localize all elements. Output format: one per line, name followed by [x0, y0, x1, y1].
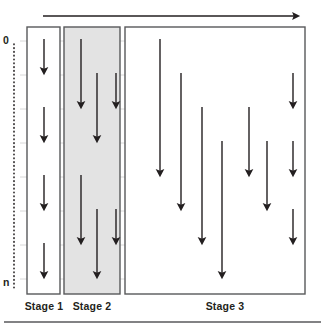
axis-label-n: n [3, 276, 9, 288]
pipeline-stage-diagram: 0 n Stage 1 Stage 2 Stage 3 [0, 0, 321, 326]
stage-boxes [27, 27, 305, 294]
diagram-canvas [0, 0, 321, 326]
stage-label-stage-3: Stage 3 [181, 300, 269, 312]
axis-label-zero: 0 [3, 34, 9, 46]
stage-box-3 [125, 27, 305, 294]
stage-label-stage-2: Stage 2 [48, 300, 136, 312]
stage-box-2 [64, 27, 120, 294]
